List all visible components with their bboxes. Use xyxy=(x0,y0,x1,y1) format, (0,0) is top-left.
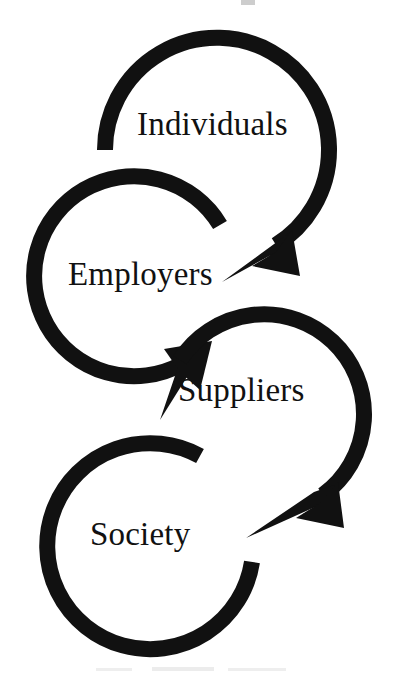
scan-artifact-bottom-center xyxy=(152,667,214,671)
node-label-individuals: Individuals xyxy=(137,108,288,141)
scan-artifact-bottom-right xyxy=(228,668,286,671)
node-label-employers: Employers xyxy=(68,258,213,291)
scan-artifact-bottom-left xyxy=(96,668,132,671)
individuals-arrow-ring xyxy=(105,38,329,282)
node-label-society: Society xyxy=(90,518,190,551)
node-label-suppliers: Suppliers xyxy=(178,374,304,407)
diagram-page: Individuals Employers Suppliers Society xyxy=(0,0,393,677)
scan-artifact-top xyxy=(241,0,255,5)
stakeholder-cascade-diagram xyxy=(0,0,393,677)
